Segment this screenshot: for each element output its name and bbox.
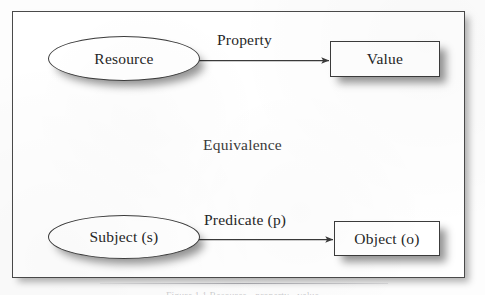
scanned-page: Resource Property Value Equivalence Subj… xyxy=(0,0,485,295)
node-value[interactable]: Value xyxy=(330,41,440,77)
node-resource-label: Resource xyxy=(94,50,153,68)
node-value-label: Value xyxy=(367,50,403,68)
caption-rule xyxy=(100,283,388,284)
node-object[interactable]: Object (o) xyxy=(334,221,440,256)
figure-caption: Figure 1.1 Resource - property - value xyxy=(0,287,485,295)
node-object-label: Object (o) xyxy=(354,230,419,248)
edge-label-predicate: Predicate (p) xyxy=(204,211,286,229)
equivalence-annotation: Equivalence xyxy=(0,136,485,154)
node-subject-label: Subject (s) xyxy=(90,228,159,246)
node-resource[interactable]: Resource xyxy=(48,36,200,81)
edge-label-property: Property xyxy=(217,31,272,49)
node-subject[interactable]: Subject (s) xyxy=(48,215,200,259)
